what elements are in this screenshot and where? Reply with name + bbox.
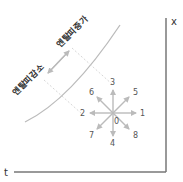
x-axis-label: x <box>171 16 177 27</box>
enthalpy-decrease-label: 엔탈피감소 <box>10 62 45 97</box>
enthalpy-change-arrow-back <box>48 51 69 73</box>
label-3: 3 <box>110 78 115 87</box>
label-6: 6 <box>89 88 94 97</box>
label-0: 0 <box>114 117 119 126</box>
dashed-guide-lower <box>44 80 82 114</box>
label-1: 1 <box>140 109 145 118</box>
t-axis-label: t <box>4 167 8 178</box>
label-4: 4 <box>110 139 115 148</box>
enthalpy-direction-diagram: x t 엔탈피증가 엔탈피감소 0 1 2 3 4 5 6 7 8 <box>0 0 183 182</box>
enthalpy-increase-label: 엔탈피증가 <box>54 14 89 49</box>
direction-star <box>90 90 136 136</box>
arrow-5 <box>113 97 129 113</box>
arrow-6 <box>97 97 113 113</box>
arrow-7 <box>97 113 113 129</box>
label-2: 2 <box>80 109 85 118</box>
label-8: 8 <box>133 131 138 140</box>
label-5: 5 <box>133 88 138 97</box>
label-7: 7 <box>89 131 94 140</box>
